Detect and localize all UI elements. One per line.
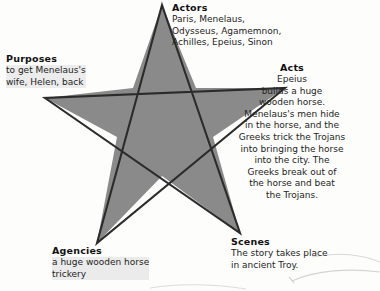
acts-line: the horse and beat — [208, 178, 376, 190]
agencies-line: trickery — [52, 269, 149, 281]
acts-line: the Trojans. — [208, 190, 376, 202]
pentad-section-scenes: Scenes The story takes place in ancient … — [231, 236, 327, 271]
actors-heading: Actors — [172, 2, 281, 13]
agencies-body: a huge wooden horse trickery — [52, 257, 149, 280]
acts-line: builds a huge — [208, 86, 376, 98]
actors-line: Achilles, Epeius, Sinon — [172, 37, 281, 49]
acts-heading: Acts — [208, 62, 376, 73]
actors-body: Paris, Menelaus, Odysseus, Agamemnon, Ac… — [172, 14, 281, 49]
scenes-body: The story takes place in ancient Troy. — [231, 248, 327, 271]
scenes-line: in ancient Troy. — [231, 260, 327, 272]
acts-line: Greeks trick the Trojans — [208, 132, 376, 144]
purposes-line: wife, Helen, back — [6, 77, 86, 89]
pentad-section-acts: Acts Epeius builds a huge wooden horse. … — [208, 62, 376, 202]
pentad-diagram: Purposes to get Menelaus's wife, Helen, … — [0, 0, 380, 291]
acts-line: into the city. The — [208, 155, 376, 167]
pentad-section-agencies: Agencies a huge wooden horse trickery — [52, 245, 149, 280]
agencies-heading: Agencies — [52, 245, 149, 256]
scenes-heading: Scenes — [231, 236, 327, 247]
acts-line: Menelaus's men hide — [208, 109, 376, 121]
scenes-line: The story takes place — [231, 248, 327, 260]
actors-line: Odysseus, Agamemnon, — [172, 26, 281, 38]
acts-line: Greeks break out of — [208, 167, 376, 179]
acts-line: in the horse, and the — [208, 120, 376, 132]
agencies-line: a huge wooden horse — [52, 257, 149, 269]
purposes-heading: Purposes — [6, 53, 86, 64]
pentad-section-actors: Actors Paris, Menelaus, Odysseus, Agamem… — [172, 2, 281, 49]
acts-line: Epeius — [208, 74, 376, 86]
purposes-body: to get Menelaus's wife, Helen, back — [6, 65, 86, 88]
acts-line: into bringing the horse — [208, 144, 376, 156]
actors-line: Paris, Menelaus, — [172, 14, 281, 26]
pentad-section-purposes: Purposes to get Menelaus's wife, Helen, … — [6, 53, 86, 88]
purposes-line: to get Menelaus's — [6, 65, 86, 77]
acts-line: wooden horse. — [208, 97, 376, 109]
acts-body: Epeius builds a huge wooden horse. Menel… — [208, 74, 376, 202]
